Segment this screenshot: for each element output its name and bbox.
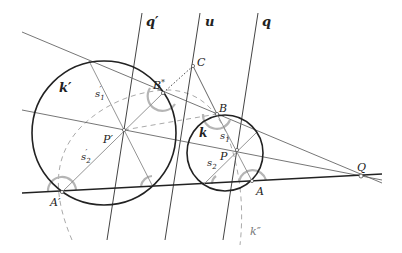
point-c [191,64,194,67]
geometry-diagram: q′ u q C B* B k′ k k″ P′ P A′ A Q s1′ s2… [0,0,402,253]
label-s1: s1 [220,130,230,144]
label-b-star-sup: * [161,78,165,87]
label-a: A [255,185,264,198]
point-b-star [161,91,164,94]
label-s2-prime: s2′ [81,147,91,165]
label-s2-prime-sup: ′ [86,147,88,156]
label-s2-prime-sub: 2 [85,157,91,165]
label-u: u [205,14,214,29]
label-a-prime: A′ [49,196,61,209]
label-q-point: Q [357,161,366,174]
point-a [250,179,253,182]
line-top-to-q [22,32,382,183]
label-k: k [199,126,207,140]
diagram-svg: q′ u q C B* B k′ k k″ P′ P A′ A Q s1′ s2… [0,0,402,253]
label-k-double-prime: k″ [250,225,262,238]
point-p [235,148,238,151]
segment-s1-prime [89,61,153,187]
point-a-prime [60,190,63,193]
label-q-prime: q′ [146,14,159,29]
label-s2-sub: 2 [211,163,217,171]
label-p-prime: P′ [102,133,113,146]
label-s2: s2 [207,157,217,171]
segment-c-b [193,66,217,114]
label-k-prime: k′ [59,80,72,95]
label-s1-prime: s1′ [95,84,105,102]
point-p-prime [122,128,125,131]
segment-s1 [217,114,252,181]
line-q-prime [107,13,142,240]
label-p: P [219,150,228,163]
label-b-star-base: B [152,79,161,92]
label-c: C [197,56,206,69]
label-s1-prime-sub: 1 [100,94,104,102]
line-u [165,13,200,240]
label-s1-sub: 1 [225,136,229,144]
label-b: B [218,102,227,115]
label-s1-prime-sup: ′ [100,84,102,93]
label-q: q [262,14,271,29]
line-mid-to-q [22,110,382,180]
point-q [359,174,363,178]
label-b-star: B* [152,78,165,92]
